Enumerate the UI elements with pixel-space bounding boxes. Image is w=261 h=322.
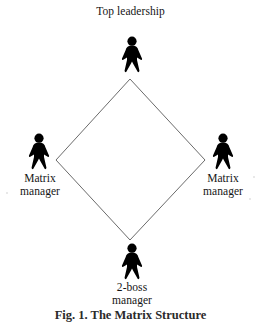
- scan-speckle: [253, 176, 255, 178]
- top-leadership-label: Top leadership: [87, 5, 174, 18]
- scan-speckle: [6, 192, 8, 194]
- figure-caption: Fig. 1. The Matrix Structure: [0, 309, 261, 322]
- scan-speckle: [249, 198, 251, 200]
- person-silhouette-icon: [210, 133, 236, 171]
- person-silhouette-icon: [119, 36, 145, 74]
- person-silhouette-icon: [119, 243, 145, 281]
- person-silhouette-icon: [26, 133, 52, 171]
- two-boss-manager-label: 2-boss manager: [89, 281, 175, 306]
- matrix-manager-right-label: Matrix manager: [188, 172, 258, 197]
- matrix-manager-left-label: Matrix manager: [5, 172, 75, 197]
- diamond-outline: [56, 79, 205, 240]
